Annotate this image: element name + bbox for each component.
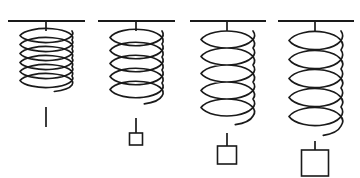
springs-layer <box>8 21 354 176</box>
hanging-weight-3 <box>218 146 237 164</box>
hanging-weight-2 <box>130 133 143 145</box>
spring-diagram <box>0 0 360 178</box>
spring-group-3 <box>190 21 266 164</box>
spring-group-4 <box>278 21 354 176</box>
spring-coil-4 <box>289 31 343 135</box>
spring-group-1 <box>8 21 85 127</box>
spring-group-2 <box>98 21 175 145</box>
spring-coil-3 <box>201 31 255 125</box>
hanging-weight-4 <box>302 150 329 176</box>
spring-coil-2 <box>110 29 163 104</box>
spring-diagram-canvas <box>0 0 360 178</box>
spring-coil-1 <box>20 28 73 91</box>
